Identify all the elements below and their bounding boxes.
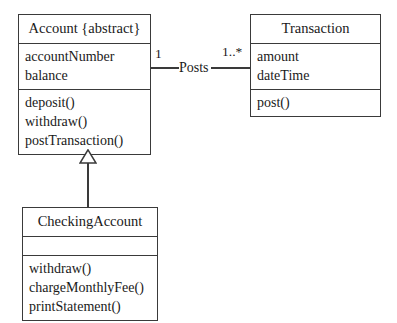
operation-list-transaction: post() <box>257 93 374 112</box>
generalization-line-stem <box>87 162 89 207</box>
operation-item: deposit() <box>25 93 144 112</box>
class-attributes-compartment-transaction: amount dateTime <box>251 43 380 89</box>
class-name-compartment-transaction: Transaction <box>251 15 380 43</box>
attribute-list-account: accountNumber balance <box>25 47 144 85</box>
association-label-posts: Posts <box>179 60 209 75</box>
uml-class-diagram-canvas: Account {abstract} accountNumber balance… <box>0 0 397 323</box>
class-operations-compartment-transaction: post() <box>251 89 380 116</box>
operation-item: withdraw() <box>25 112 144 131</box>
attribute-list-transaction: amount dateTime <box>257 47 374 85</box>
association-line-posts-left <box>151 67 179 69</box>
class-title-transaction: Transaction <box>257 19 374 38</box>
generalization-hollow-triangle-icon <box>79 149 97 164</box>
class-operations-compartment-checkingaccount: withdraw() chargeMonthlyFee() printState… <box>23 255 157 320</box>
association-line-posts-right <box>211 67 250 69</box>
attribute-item: balance <box>25 66 144 85</box>
class-name-compartment-account: Account {abstract} <box>19 15 150 43</box>
class-box-checkingaccount[interactable]: CheckingAccount withdraw() chargeMonthly… <box>22 207 158 321</box>
class-attributes-compartment-account: accountNumber balance <box>19 43 150 89</box>
class-name-compartment-checkingaccount: CheckingAccount <box>23 208 157 236</box>
operation-item: postTransaction() <box>25 131 144 150</box>
operation-list-checkingaccount: withdraw() chargeMonthlyFee() printState… <box>29 259 151 316</box>
multiplicity-label-transaction: 1..* <box>222 44 242 59</box>
class-operations-compartment-account: deposit() withdraw() postTransaction() <box>19 89 150 154</box>
class-box-transaction[interactable]: Transaction amount dateTime post() <box>250 14 381 117</box>
class-title-account: Account {abstract} <box>25 19 144 38</box>
operation-item: withdraw() <box>29 259 151 278</box>
attribute-item: dateTime <box>257 66 374 85</box>
operation-item: chargeMonthlyFee() <box>29 278 151 297</box>
class-attributes-compartment-checkingaccount <box>23 236 157 255</box>
attribute-item: accountNumber <box>25 47 144 66</box>
operation-item: post() <box>257 93 374 112</box>
class-title-checkingaccount: CheckingAccount <box>29 212 151 231</box>
multiplicity-label-account: 1 <box>155 46 162 61</box>
operation-item: printStatement() <box>29 297 151 316</box>
class-box-account[interactable]: Account {abstract} accountNumber balance… <box>18 14 151 155</box>
operation-list-account: deposit() withdraw() postTransaction() <box>25 93 144 150</box>
attribute-item: amount <box>257 47 374 66</box>
